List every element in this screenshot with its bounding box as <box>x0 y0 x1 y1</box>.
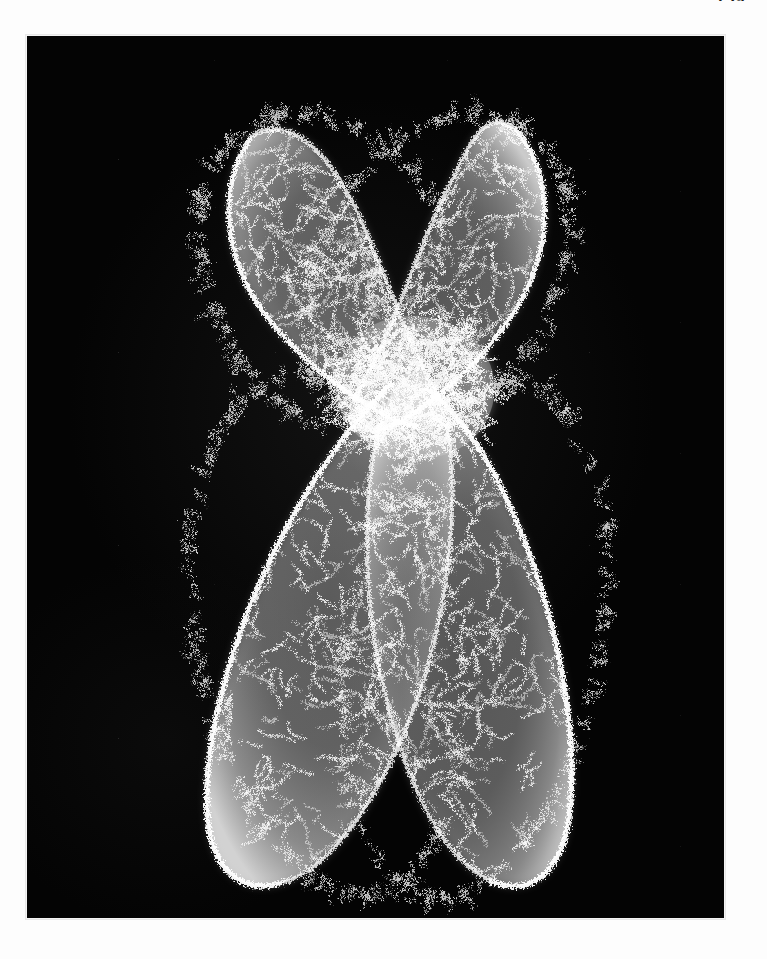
page-number: 159 <box>715 0 745 1</box>
book-page: 159 <box>0 0 767 959</box>
metaphase-chromosome <box>27 36 724 918</box>
plate-frame <box>26 35 725 919</box>
micrograph-plate <box>27 36 724 918</box>
